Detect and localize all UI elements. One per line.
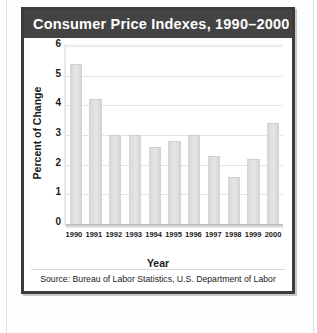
y-tick-label: 6 [55, 39, 61, 49]
x-tick-label: 1990 [64, 230, 84, 239]
figure-title: Consumer Price Indexes, 1990–2000 [33, 16, 289, 32]
bar[interactable] [168, 141, 180, 224]
chart-area: Percent of Change 0123456 19901991199219… [31, 44, 285, 249]
bar-slot [165, 46, 185, 224]
bar-slot [224, 46, 244, 224]
x-tick-label: 1993 [124, 230, 144, 239]
bar[interactable] [129, 135, 141, 224]
bar-series [66, 46, 283, 224]
bar[interactable] [149, 147, 161, 224]
bar-slot [105, 46, 125, 224]
bar-slot [125, 46, 145, 224]
x-axis-ticks: 1990199119921993199419951996199719981999… [64, 230, 283, 239]
x-tick-label: 1991 [84, 230, 104, 239]
bar[interactable] [208, 156, 220, 224]
bar[interactable] [89, 99, 101, 224]
bar[interactable] [228, 177, 240, 224]
bar-slot [263, 46, 283, 224]
y-tick-label: 0 [55, 217, 61, 227]
bar-slot [66, 46, 86, 224]
bar-slot [204, 46, 224, 224]
bar[interactable] [70, 64, 82, 224]
page-right-rule [313, 0, 314, 333]
bar[interactable] [267, 123, 279, 224]
x-tick-label: 1994 [144, 230, 164, 239]
x-tick-label: 1998 [223, 230, 243, 239]
source-note: Source: Bureau of Labor Statistics, U.S.… [24, 274, 292, 284]
bar[interactable] [109, 135, 121, 224]
figure-body: Percent of Change 0123456 19901991199219… [24, 38, 292, 291]
y-tick-label: 4 [55, 98, 61, 108]
x-tick-label: 2000 [263, 230, 283, 239]
y-tick-label: 2 [55, 158, 61, 168]
plot-frame [64, 44, 283, 226]
y-axis-ticks: 0123456 [45, 44, 61, 222]
x-tick-label: 1996 [183, 230, 203, 239]
x-tick-label: 1997 [203, 230, 223, 239]
y-tick-label: 3 [55, 128, 61, 138]
bar-slot [145, 46, 165, 224]
y-tick-label: 5 [55, 69, 61, 79]
y-axis-label: Percent of Change [29, 44, 45, 222]
x-tick-label: 1992 [104, 230, 124, 239]
bar[interactable] [247, 159, 259, 224]
page-left-rule [6, 0, 7, 333]
page-canvas: Consumer Price Indexes, 1990–2000 Percen… [0, 0, 317, 333]
x-tick-label: 1999 [243, 230, 263, 239]
bar-slot [184, 46, 204, 224]
y-tick-label: 1 [55, 187, 61, 197]
figure-container: Consumer Price Indexes, 1990–2000 Percen… [21, 7, 295, 294]
source-divider [31, 269, 285, 270]
bar-slot [244, 46, 264, 224]
x-tick-label: 1995 [164, 230, 184, 239]
axis-baseline [66, 224, 283, 228]
bar[interactable] [188, 135, 200, 224]
bar-slot [86, 46, 106, 224]
x-axis-label: Year [31, 257, 285, 269]
figure-header: Consumer Price Indexes, 1990–2000 [24, 10, 292, 38]
y-axis-label-text: Percent of Change [31, 87, 43, 180]
plot-area [66, 46, 283, 224]
